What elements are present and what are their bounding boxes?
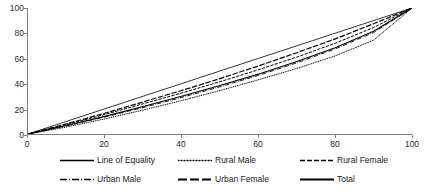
x-tick-mark	[412, 135, 413, 138]
x-tick-mark	[258, 135, 259, 138]
legend-line-swatch-icon	[60, 155, 94, 166]
x-tick-label: 80	[330, 140, 339, 149]
y-tick-label: 80	[15, 29, 24, 38]
x-tick-label: 100	[405, 140, 419, 149]
x-tick-mark	[104, 135, 105, 138]
x-tick-label: 20	[99, 140, 108, 149]
legend-line-swatch-icon	[60, 174, 94, 185]
legend-row: Line of EqualityRural MaleRural Female	[0, 151, 433, 170]
legend-label: Total	[337, 175, 355, 184]
legend-line-swatch-icon	[300, 174, 334, 185]
legend-label: Line of Equality	[97, 156, 155, 165]
x-tick-mark	[181, 135, 182, 138]
legend-item[interactable]: Urban Female	[178, 170, 269, 189]
lorenz-curve-chart: 020406080100 020406080100 Line of Equali…	[0, 0, 433, 192]
series-line	[28, 8, 412, 134]
y-tick-label: 40	[15, 80, 24, 89]
x-tick-mark	[335, 135, 336, 138]
x-tick-mark	[27, 135, 28, 138]
x-tick-label: 0	[25, 140, 30, 149]
legend-item[interactable]: Urban Male	[60, 170, 141, 189]
y-tick-label: 100	[10, 4, 24, 13]
series-canvas	[28, 8, 412, 134]
legend-line-swatch-icon	[178, 155, 212, 166]
x-tick-label: 40	[176, 140, 185, 149]
legend-line-swatch-icon	[300, 155, 334, 166]
chart-legend: Line of EqualityRural MaleRural FemaleUr…	[0, 151, 433, 192]
legend-item[interactable]: Total	[300, 170, 355, 189]
legend-label: Urban Female	[215, 175, 269, 184]
legend-label: Rural Female	[337, 156, 388, 165]
legend-label: Urban Male	[97, 175, 141, 184]
legend-line-swatch-icon	[178, 174, 212, 185]
plot-wrapper: 020406080100 020406080100	[0, 0, 433, 148]
x-tick-label: 60	[253, 140, 262, 149]
legend-label: Rural Male	[215, 156, 256, 165]
plot-area	[27, 8, 412, 135]
legend-item[interactable]: Rural Female	[300, 151, 388, 170]
y-tick-label: 20	[15, 105, 24, 114]
y-tick-label: 60	[15, 55, 24, 64]
legend-item[interactable]: Rural Male	[178, 151, 256, 170]
y-axis: 020406080100	[0, 0, 24, 143]
legend-row: Urban MaleUrban FemaleTotal	[0, 170, 433, 189]
legend-item[interactable]: Line of Equality	[60, 151, 155, 170]
